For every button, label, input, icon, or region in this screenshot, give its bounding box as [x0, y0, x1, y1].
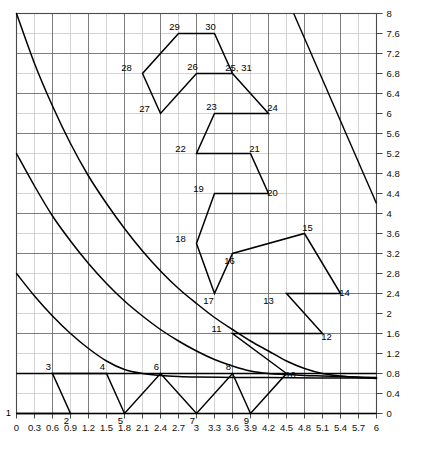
vertex-label: 22 — [175, 143, 186, 154]
y-tick-label: 1.6 — [387, 328, 400, 339]
y-tick-label: 3.6 — [387, 228, 400, 239]
simplex-iteration-chart: 00.30.60.91.21.51.82.12.42.733.33.63.94.… — [0, 0, 429, 452]
y-tick-label: 6 — [387, 108, 392, 119]
y-tick-label: 4.4 — [387, 188, 400, 199]
vertex-label: 26 — [187, 61, 198, 72]
vertex-label: 2 — [64, 415, 69, 426]
x-tick-label: 1.2 — [82, 422, 95, 433]
y-tick-label: 8 — [387, 8, 392, 19]
x-tick-label: 2.7 — [172, 422, 185, 433]
x-tick-label: 2.1 — [136, 422, 149, 433]
x-tick-label: 2.4 — [154, 422, 167, 433]
vertex-label: 7 — [190, 415, 195, 426]
vertex-label: 28 — [121, 62, 132, 73]
vertex-label: 23 — [206, 101, 217, 112]
vertex-label: 4 — [100, 361, 105, 372]
vertex-label: 16 — [224, 255, 235, 266]
y-tick-label: 2.4 — [387, 288, 400, 299]
y-tick-label: 6.8 — [387, 68, 400, 79]
vertex-label: 13 — [263, 295, 274, 306]
y-tick-label: 7.2 — [387, 48, 400, 59]
x-tick-label: 0.6 — [46, 422, 59, 433]
y-tick-label: 1.2 — [387, 348, 400, 359]
x-tick-label: 1.5 — [100, 422, 113, 433]
x-tick-label: 0 — [14, 422, 19, 433]
y-tick-label: 7.6 — [387, 28, 400, 39]
y-tick-label: 0.4 — [387, 388, 400, 399]
vertex-label: 19 — [193, 183, 204, 194]
vertex-label: 18 — [175, 233, 186, 244]
x-tick-label: 4.2 — [262, 422, 275, 433]
vertex-label: 14 — [339, 287, 350, 298]
vertex-label: 25, 31 — [225, 62, 251, 73]
x-tick-label: 4.8 — [298, 422, 311, 433]
y-tick-label: 6.4 — [387, 88, 400, 99]
vertex-label: 9 — [244, 415, 249, 426]
y-tick-label: 2.8 — [387, 268, 400, 279]
y-tick-label: 4 — [387, 208, 392, 219]
y-tick-label: 4.8 — [387, 168, 400, 179]
x-tick-label: 6 — [374, 422, 379, 433]
vertex-label: 5 — [118, 415, 123, 426]
y-tick-label: 0 — [387, 408, 392, 419]
vertex-label: 21 — [249, 143, 260, 154]
chart-root: 00.30.60.91.21.51.82.12.42.733.33.63.94.… — [0, 0, 429, 452]
vertex-label: 10 — [285, 369, 296, 380]
vertex-label: 20 — [267, 187, 278, 198]
vertex-label: 30 — [205, 21, 216, 32]
vertex-label: 3 — [46, 361, 51, 372]
vertex-label: 17 — [203, 295, 214, 306]
y-tick-label: 5.2 — [387, 148, 400, 159]
vertex-label: 15 — [302, 222, 313, 233]
vertex-label: 29 — [169, 21, 180, 32]
y-tick-label: 3.2 — [387, 248, 400, 259]
x-tick-label: 4.5 — [280, 422, 293, 433]
vertex-label: 8 — [226, 361, 231, 372]
y-tick-label: 5.6 — [387, 128, 400, 139]
y-tick-label: 2 — [387, 308, 392, 319]
vertex-label: 12 — [321, 331, 332, 342]
vertex-label: 11 — [212, 323, 222, 334]
x-tick-label: 0.3 — [28, 422, 41, 433]
x-tick-label: 5.7 — [352, 422, 365, 433]
x-tick-label: 3.3 — [208, 422, 221, 433]
vertex-label: 1 — [6, 407, 11, 418]
vertex-label: 6 — [154, 361, 159, 372]
y-tick-label: 0.8 — [387, 368, 400, 379]
x-tick-label: 5.1 — [316, 422, 329, 433]
x-tick-label: 3.6 — [226, 422, 239, 433]
x-tick-label: 5.4 — [334, 422, 347, 433]
vertex-label: 24 — [267, 102, 278, 113]
vertex-label: 27 — [139, 103, 150, 114]
